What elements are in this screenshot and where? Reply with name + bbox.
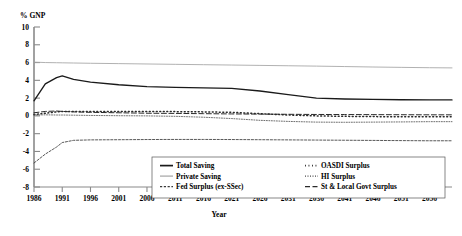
legend-label: Private Saving (176, 173, 221, 181)
legend-label: Fed Surplus (ex-SSec) (176, 183, 244, 191)
y-tick-label: 6 (25, 58, 29, 67)
x-tick-label: 2001 (111, 194, 126, 203)
y-tick-label: 2 (25, 94, 29, 103)
y-tick-label: 10 (22, 23, 30, 32)
y-tick-label: -4 (23, 147, 29, 156)
gnp-line-chart: 1086420-2-4-6-8 198619911996200120062011… (0, 0, 462, 236)
x-tick-label: 1986 (27, 194, 42, 203)
data-series-group (34, 62, 452, 163)
y-tick-label: -8 (23, 183, 29, 192)
chart-container: 1086420-2-4-6-8 198619911996200120062011… (0, 0, 462, 236)
chart-legend: Total SavingPrivate SavingFed Surplus (e… (152, 157, 445, 198)
y-tick-label: -6 (23, 165, 29, 174)
series-line (34, 62, 452, 68)
series-line (34, 76, 452, 101)
y-tick-label: 4 (25, 76, 29, 85)
y-tick-labels: 1086420-2-4-6-8 (22, 23, 30, 192)
x-axis-title: Year (212, 210, 228, 219)
y-tick-label: 8 (25, 40, 29, 49)
x-tick-label: 1991 (55, 194, 70, 203)
legend-label: St & Local Govt Surplus (321, 183, 397, 191)
x-tick-label: 1996 (83, 194, 98, 203)
legend-label: Total Saving (176, 162, 215, 170)
legend-label: HI Surplus (321, 173, 355, 181)
y-axis-title: % GNP (20, 11, 46, 20)
legend-label: OASDI Surplus (321, 162, 370, 170)
series-line (34, 115, 452, 122)
y-tick-marks (34, 27, 40, 187)
y-tick-label: 0 (25, 111, 29, 120)
y-tick-label: -2 (23, 129, 29, 138)
